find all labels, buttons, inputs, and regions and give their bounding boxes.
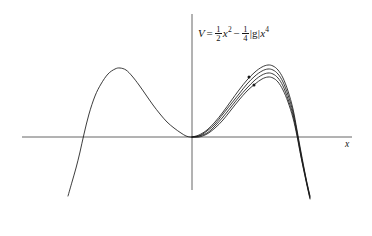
formula-term1-exponent: 2 [228, 25, 232, 34]
fraction-denominator: 2 [215, 33, 221, 43]
marker-dot [248, 76, 251, 79]
marker-dot [253, 84, 256, 87]
curve-right-branch-curve-3 [192, 73, 310, 198]
curves-group [68, 65, 310, 199]
formula-coupling-constant: |g| [250, 27, 261, 39]
curve-right-branch-curve-2 [192, 69, 310, 197]
formula-term2-exponent: 4 [265, 25, 269, 34]
plot-canvas [0, 0, 372, 236]
fraction-numerator: 1 [242, 25, 248, 34]
potential-formula-label: V=12x2−14|g|x4 [198, 25, 269, 44]
curve-right-branch-curve-4 [192, 77, 310, 199]
curve-left-branch [68, 68, 192, 196]
formula-fraction-one-quarter: 14 [242, 25, 248, 44]
formula-lhs: V [198, 27, 205, 39]
formula-minus-sign: − [233, 27, 239, 39]
formula-fraction-one-half: 12 [215, 25, 221, 44]
x-axis-label: x [345, 139, 349, 149]
fraction-numerator: 1 [215, 25, 221, 34]
potential-plot-figure: V=12x2−14|g|x4 x [0, 0, 372, 236]
fraction-denominator: 4 [242, 33, 248, 43]
formula-equals: = [206, 27, 212, 39]
